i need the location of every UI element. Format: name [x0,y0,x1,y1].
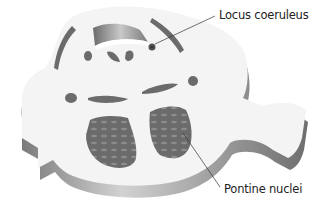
label-pontine-nuclei: Pontine nuclei [224,182,302,196]
label-locus-coeruleus: Locus coeruleus [219,8,309,22]
slab-top-surface [22,6,306,185]
locus-coeruleus-marker [149,44,156,51]
